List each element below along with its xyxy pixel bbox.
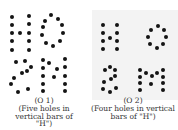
hole-dot <box>20 71 24 75</box>
hole-dot <box>102 80 106 84</box>
hole-dot <box>44 41 48 45</box>
hole-dot <box>101 31 105 35</box>
hole-dot <box>43 19 47 23</box>
hole-dot <box>63 82 67 86</box>
hole-dot <box>161 88 165 92</box>
hole-dot <box>161 75 165 79</box>
hole-dot <box>27 48 31 52</box>
hole-dot <box>41 74 45 78</box>
hole-dot <box>149 28 153 32</box>
hole-dot <box>149 82 153 86</box>
hole-dot <box>155 46 159 50</box>
hole-dot <box>138 81 142 85</box>
hole-dot <box>101 87 105 91</box>
hole-dot <box>40 33 44 37</box>
hole-dot <box>115 31 119 35</box>
hole-dot <box>10 23 14 27</box>
hole-dot <box>63 65 67 69</box>
hole-dot <box>58 39 62 43</box>
hole-dot <box>156 24 160 28</box>
caption-o1-desc-line3: "H") <box>0 120 88 128</box>
hole-dot <box>108 65 112 69</box>
hole-dot <box>27 14 31 18</box>
hole-dot <box>101 23 105 27</box>
hole-dot <box>18 31 22 35</box>
hole-dot <box>29 65 33 69</box>
hole-dot <box>41 58 45 62</box>
hole-dot <box>41 66 45 70</box>
hole-dot <box>109 77 113 81</box>
caption-o2-desc-line2: bars of "H") <box>88 113 178 121</box>
hole-dot <box>56 17 60 21</box>
hole-dot <box>161 68 165 72</box>
hole-dot <box>115 23 119 27</box>
hole-dot <box>113 74 117 78</box>
hole-dot <box>10 31 14 35</box>
hole-dot <box>113 68 117 72</box>
hole-dot <box>148 42 152 46</box>
hole-dot <box>55 67 59 71</box>
hole-dot <box>10 48 14 52</box>
hole-dot <box>61 31 65 35</box>
hole-dot <box>138 68 142 72</box>
hole-dot <box>27 39 31 43</box>
hole-dot <box>63 74 67 78</box>
hole-dot <box>161 42 165 46</box>
hole-dot <box>49 13 53 17</box>
hole-dot <box>146 35 150 39</box>
hole-dot <box>26 87 30 91</box>
hole-dot <box>138 88 142 92</box>
hole-dot <box>115 39 119 43</box>
hole-dot <box>9 82 13 86</box>
hole-dot <box>41 89 45 93</box>
hole-dot <box>25 69 29 73</box>
hole-dot <box>162 28 166 32</box>
hole-dot <box>23 59 27 63</box>
hole-dot <box>14 60 18 64</box>
hole-dot <box>103 68 107 72</box>
caption-o2: (O 2) (Four holes in vertical bars of "H… <box>88 97 178 120</box>
hole-dot <box>115 47 119 51</box>
hole-dot <box>27 31 31 35</box>
hole-dot <box>108 90 112 94</box>
hole-dot <box>161 81 165 85</box>
hole-dot <box>41 25 45 29</box>
hole-dot <box>10 15 14 19</box>
hole-dot <box>12 76 16 80</box>
hole-dot <box>41 82 45 86</box>
hole-dot <box>101 39 105 43</box>
hole-dot <box>60 23 64 27</box>
caption-o1: (O 1) (Five holes in vertical bars of "H… <box>0 97 88 128</box>
hole-dot <box>47 61 51 65</box>
hole-dot <box>27 22 31 26</box>
hole-dot <box>150 74 154 78</box>
hole-dot <box>114 86 118 90</box>
hole-dot <box>138 75 142 79</box>
hole-dot <box>101 47 105 51</box>
hole-dot <box>164 35 168 39</box>
hole-dot <box>63 89 67 93</box>
hole-dot <box>63 57 67 61</box>
hole-dot <box>51 44 55 48</box>
hole-dot <box>108 36 112 40</box>
hole-dot <box>155 71 159 75</box>
hole-dot <box>16 90 20 94</box>
hole-dot <box>52 75 56 79</box>
hole-dot <box>10 39 14 43</box>
hole-dot <box>144 71 148 75</box>
